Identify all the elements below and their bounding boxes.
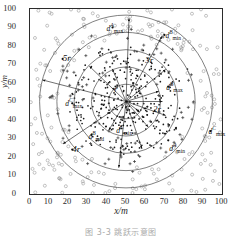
y-tick-0: 0: [0, 189, 16, 198]
y-tick-20: 20: [0, 152, 16, 161]
annotation-dC-max-right: dCmax: [208, 124, 225, 138]
ring-label-4r: 4r: [72, 144, 80, 154]
x-tick-100: 100: [210, 197, 232, 206]
y-tick-10: 10: [0, 170, 16, 179]
annotation-dC-max-left: dCmax: [65, 96, 82, 110]
y-tick-80: 80: [0, 41, 16, 50]
plot-frame: [29, 8, 223, 195]
y-tick-40: 40: [0, 115, 16, 124]
y-tick-100: 100: [0, 4, 16, 13]
y-tick-90: 90: [0, 22, 16, 31]
y-tick-50: 50: [0, 96, 16, 105]
figure-caption: 图 3-3 跳跃示意图: [0, 226, 242, 237]
ring-label-r: r: [114, 85, 117, 94]
scatter-canvas: [30, 9, 222, 194]
ring-label-3r: 3r: [145, 55, 153, 65]
x-tick-30: 30: [75, 197, 97, 206]
x-tick-60: 60: [133, 197, 155, 206]
annotation-dC-min: dCmin: [116, 123, 132, 137]
annotation-dB-min: dBmin: [165, 28, 181, 42]
plot-area: y/m 100 90 80 70 60 50 40 30 20 10 0 0 1…: [0, 0, 242, 212]
figure: y/m 100 90 80 70 60 50 40 30 20 10 0 0 1…: [0, 0, 242, 241]
annotation-dB-max: dBmax: [166, 80, 183, 94]
y-tick-30: 30: [0, 133, 16, 142]
y-tick-60: 60: [0, 78, 16, 87]
y-tick-70: 70: [0, 59, 16, 68]
ring-label-5r: 5r: [63, 53, 71, 63]
annotation-dB-mid: dBmid: [88, 129, 104, 143]
annotation-dA-max: dAmax: [107, 21, 124, 35]
annotation-dA-min: dAmin: [169, 141, 185, 155]
ring-label-2r: 2r: [153, 104, 161, 114]
x-axis-label: x/m: [0, 206, 242, 216]
